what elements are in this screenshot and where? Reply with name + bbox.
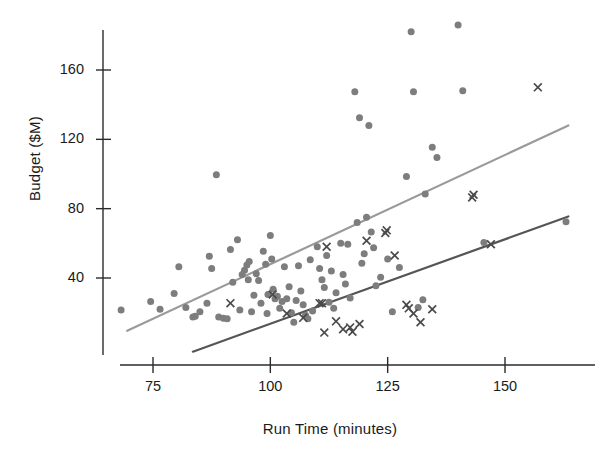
x-tick-label: 100	[247, 378, 293, 394]
x-tick-label: 75	[130, 378, 176, 394]
x-tick-label: 125	[365, 378, 411, 394]
x-axis-title: Run Time (minutes)	[170, 420, 490, 437]
chart-figure: Budget ($M) Run Time (minutes) 408012016…	[0, 0, 608, 456]
y-tick-label: 160	[38, 61, 84, 77]
x-tick-label: 150	[482, 378, 528, 394]
y-tick-label: 40	[38, 269, 84, 285]
series-circles-points	[118, 21, 570, 325]
axis-lines	[96, 30, 595, 373]
y-tick-label: 120	[38, 130, 84, 146]
y-tick-label: 80	[38, 200, 84, 216]
